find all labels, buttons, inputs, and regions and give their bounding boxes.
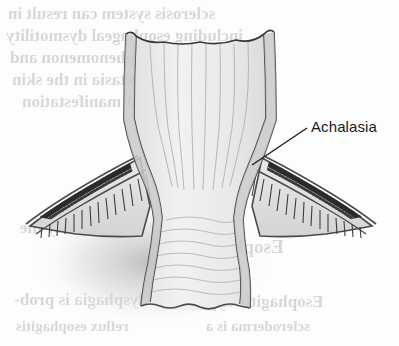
illustration-page: sclerosis system can result inincluding … — [0, 0, 399, 346]
left-gastric-fundus — [26, 156, 150, 238]
achalasia-label: Achalasia — [311, 118, 377, 135]
achalasia-figure — [0, 0, 399, 346]
right-gastric-fundus — [252, 156, 376, 238]
